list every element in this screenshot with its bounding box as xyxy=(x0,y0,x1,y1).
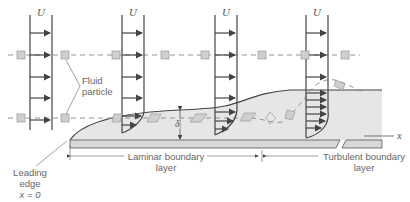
x-axis-label: x xyxy=(397,129,402,141)
turbulent-line2: layer xyxy=(318,162,410,173)
fluid-particle-label: Fluid particle xyxy=(82,75,113,97)
leading-line3: x = 0 xyxy=(10,189,50,200)
velocity-profile-uniform xyxy=(30,15,52,130)
fluid-particle-line2: particle xyxy=(82,86,113,97)
velocity-symbol-1: U xyxy=(37,6,45,18)
leading-line2: edge xyxy=(10,178,50,189)
velocity-symbol-2: U xyxy=(129,6,137,18)
thickness-symbol: δ xyxy=(175,118,180,129)
laminar-line2: layer xyxy=(126,162,206,173)
laminar-label: Laminar boundary layer xyxy=(126,151,206,173)
velocity-symbol-3: U xyxy=(222,6,230,18)
fluid-particle-line1: Fluid xyxy=(82,75,113,86)
flat-plate xyxy=(70,140,382,148)
leading-edge-label: Leading edge x = 0 xyxy=(10,167,50,200)
velocity-symbol-4: U xyxy=(313,6,321,18)
leading-line1: Leading xyxy=(10,167,50,178)
turbulent-label: Turbulent boundary layer xyxy=(318,151,410,173)
turbulent-line1: Turbulent boundary xyxy=(318,151,410,162)
laminar-line1: Laminar boundary xyxy=(126,151,206,162)
